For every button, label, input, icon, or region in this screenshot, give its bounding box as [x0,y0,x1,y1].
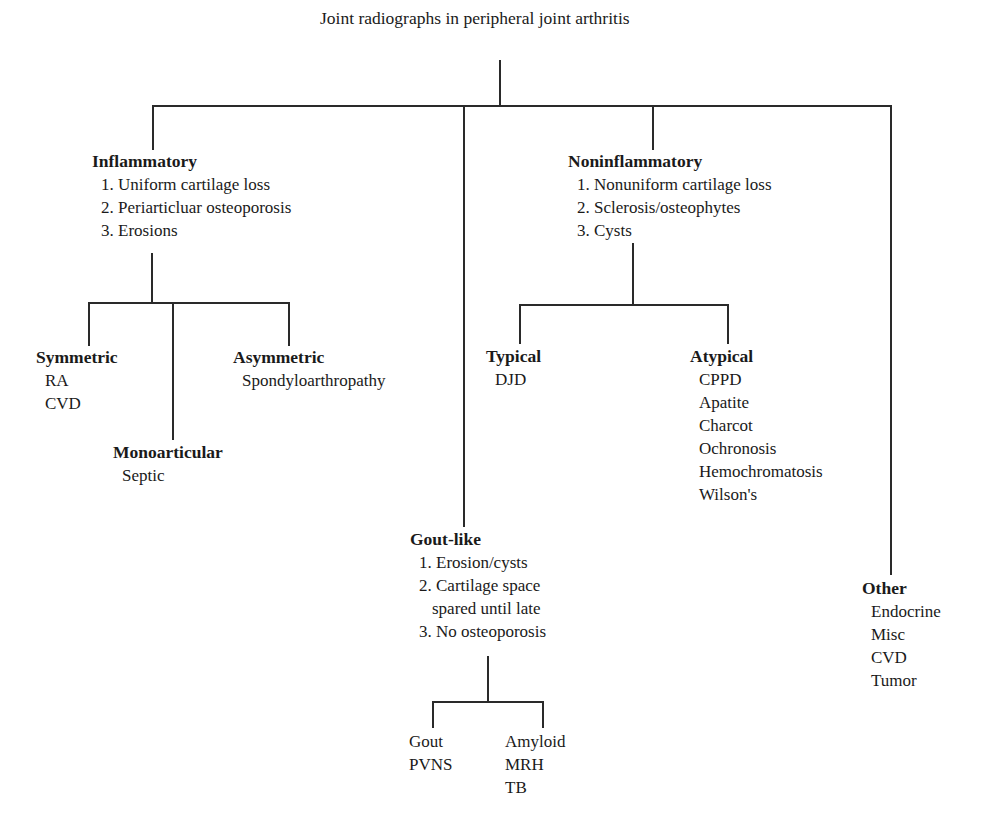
connector-amyloid-drop [542,701,544,728]
connector-symmetric-drop [88,302,90,346]
connector-noninflammatory-stem [632,243,634,305]
symmetric-item: RA [36,369,118,392]
other-item: Tumor [862,669,941,692]
typical-node: Typical DJD [486,345,541,391]
asymmetric-item: Spondyloarthropathy [233,369,386,392]
connector-asymmetric-drop [288,302,290,346]
symmetric-item: CVD [36,392,118,415]
typical-item: DJD [486,368,541,391]
connector-monoarticular-drop [172,302,174,440]
goutlike-criterion: 3. No osteoporosis [410,620,546,643]
connector-other-drop [890,105,892,575]
atypical-item: CPPD [690,368,823,391]
atypical-title: Atypical [690,345,823,368]
monoarticular-title: Monoarticular [113,441,223,464]
amyloid-item: TB [505,776,565,799]
goutlike-criterion: 1. Erosion/cysts [410,551,546,574]
noninflammatory-node: Noninflammatory 1. Nonuniform cartilage … [568,150,772,242]
connector-root-stem [499,60,501,106]
connector-inflammatory-stem [151,253,153,303]
connector-noninflammatory-bar [519,304,728,306]
amyloid-item: MRH [505,753,565,776]
other-item: CVD [862,646,941,669]
amyloid-item: Amyloid [505,730,565,753]
connector-goutlike-stem [487,656,489,702]
inflammatory-title: Inflammatory [92,150,291,173]
inflammatory-node: Inflammatory 1. Uniform cartilage loss 2… [92,150,291,242]
noninflammatory-title: Noninflammatory [568,150,772,173]
goutlike-criterion: 2. Cartilage space [410,574,546,597]
inflammatory-criterion: 3. Erosions [92,219,291,242]
connector-noninflammatory-drop [652,105,654,150]
amyloid-group-node: Amyloid MRH TB [505,730,565,799]
connector-root-bar [152,105,891,107]
goutlike-node: Gout-like 1. Erosion/cysts 2. Cartilage … [410,528,546,643]
atypical-item: Apatite [690,391,823,414]
connector-goutlike-drop [463,105,465,527]
symmetric-node: Symmetric RA CVD [36,346,118,415]
connector-inflammatory-drop [152,105,154,150]
other-node: Other Endocrine Misc CVD Tumor [862,577,941,692]
atypical-item: Hemochromatosis [690,460,823,483]
connector-typical-drop [519,304,521,344]
atypical-item: Wilson's [690,483,823,506]
inflammatory-criterion: 1. Uniform cartilage loss [92,173,291,196]
goutlike-title: Gout-like [410,528,546,551]
atypical-item: Charcot [690,414,823,437]
connector-atypical-drop [727,304,729,344]
noninflammatory-criterion: 2. Sclerosis/osteophytes [568,196,772,219]
gout-group-node: Gout PVNS [409,730,452,776]
atypical-node: Atypical CPPD Apatite Charcot Ochronosis… [690,345,823,506]
connector-goutlike-bar [432,701,544,703]
symmetric-title: Symmetric [36,346,118,369]
gout-item: PVNS [409,753,452,776]
other-title: Other [862,577,941,600]
asymmetric-title: Asymmetric [233,346,386,369]
goutlike-criterion-continued: spared until late [410,597,546,620]
connector-gout-drop [432,701,434,728]
gout-item: Gout [409,730,452,753]
monoarticular-node: Monoarticular Septic [113,441,223,487]
connector-inflammatory-bar [88,302,290,304]
monoarticular-item: Septic [113,464,223,487]
root-title: Joint radiographs in peripheral joint ar… [320,8,630,29]
asymmetric-node: Asymmetric Spondyloarthropathy [233,346,386,392]
noninflammatory-criterion: 1. Nonuniform cartilage loss [568,173,772,196]
other-item: Endocrine [862,600,941,623]
other-item: Misc [862,623,941,646]
typical-title: Typical [486,345,541,368]
noninflammatory-criterion: 3. Cysts [568,219,772,242]
atypical-item: Ochronosis [690,437,823,460]
inflammatory-criterion: 2. Periarticluar osteoporosis [92,196,291,219]
